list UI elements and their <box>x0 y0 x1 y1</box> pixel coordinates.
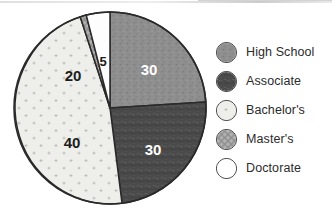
legend-label-high-school: High School <box>246 45 315 59</box>
slice-value-high-school: 30 <box>141 61 158 78</box>
pie-plot-area: 30 30 40 20 5 <box>0 0 220 219</box>
legend-swatch-masters-icon <box>216 129 237 150</box>
legend-swatch-doctorate-icon <box>216 158 237 179</box>
legend-swatch-high-school-icon <box>216 42 237 63</box>
legend-label-masters: Master's <box>246 132 294 146</box>
slice-value-associate: 30 <box>145 141 162 158</box>
slice-value-doctorate: 5 <box>99 54 106 69</box>
legend-label-doctorate: Doctorate <box>246 161 301 175</box>
slice-value-bachelors: 40 <box>64 134 81 151</box>
legend-swatch-bachelors-icon <box>216 100 237 121</box>
slice-value-masters: 20 <box>65 67 82 84</box>
pie-svg: 30 30 40 20 5 <box>0 0 220 219</box>
legend-label-associate: Associate <box>246 74 301 88</box>
legend-item-associate[interactable]: Associate <box>216 67 332 95</box>
legend-item-bachelors[interactable]: Bachelor's <box>216 96 332 124</box>
pie-slices <box>15 12 206 204</box>
legend: High School Associate Bachelor's Master'… <box>216 38 332 183</box>
legend-item-doctorate[interactable]: Doctorate <box>216 154 332 182</box>
pie-slice-high-school[interactable] <box>110 12 206 108</box>
legend-swatch-associate-icon <box>216 71 237 92</box>
legend-label-bachelors: Bachelor's <box>246 103 305 117</box>
legend-item-masters[interactable]: Master's <box>216 125 332 153</box>
legend-item-high-school[interactable]: High School <box>216 38 332 66</box>
pie-chart-figure: 30 30 40 20 5 High School Associate <box>0 0 332 219</box>
